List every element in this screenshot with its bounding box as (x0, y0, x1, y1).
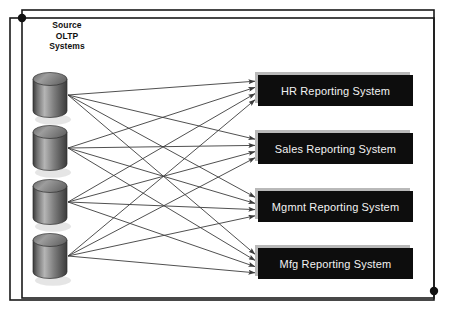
source-cylinders (33, 73, 71, 286)
connection-source-2-to-target-mfg (68, 148, 255, 260)
frame-dot-bottom-right (430, 287, 438, 295)
reporting-system-boxes (255, 72, 413, 279)
cylinder-top (33, 73, 67, 86)
connection-source-4-to-target-mgmnt (68, 216, 255, 256)
connection-source-4-to-target-hr (68, 100, 255, 256)
database-cylinder-icon[interactable] (33, 73, 71, 125)
connection-source-1-to-target-sales (68, 95, 255, 139)
database-cylinder-icon[interactable] (33, 234, 71, 286)
target-hr-box[interactable] (258, 75, 413, 106)
cylinder-top (33, 126, 67, 139)
connection-source-1-to-target-mfg (68, 95, 255, 254)
cylinder-top (33, 180, 67, 193)
connection-source-4-to-target-sales (68, 158, 255, 256)
connection-source-3-to-target-mgmnt (68, 202, 255, 210)
target-mgmnt-box[interactable] (258, 191, 413, 222)
target-sales-box[interactable] (258, 133, 413, 164)
cylinder-top (33, 234, 67, 247)
diagram-svg (0, 0, 449, 313)
database-cylinder-icon[interactable] (33, 126, 71, 178)
connection-source-3-to-target-sales (68, 152, 255, 202)
diagram-canvas: SourceOLTPSystems HR Reporting SystemSal… (0, 0, 449, 313)
frame-dot-top-left (18, 14, 26, 22)
connection-source-3-to-target-mfg (68, 202, 255, 267)
connection-source-1-to-target-hr (68, 81, 255, 95)
connection-source-4-to-target-mfg (68, 256, 255, 273)
target-mfg-box[interactable] (258, 248, 413, 279)
connection-source-2-to-target-mgmnt (68, 148, 255, 203)
database-cylinder-icon[interactable] (33, 180, 71, 232)
connection-source-2-to-target-hr (68, 87, 255, 148)
connection-lines (68, 81, 255, 273)
